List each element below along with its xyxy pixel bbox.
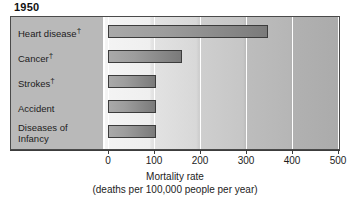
category-label-text: Diseases of xyxy=(18,122,68,133)
category-label-text: Infancy xyxy=(18,133,49,144)
x-axis-caption: Mortality rate (deaths per 100,000 peopl… xyxy=(0,170,350,196)
chart-title: 1950 xyxy=(14,1,39,14)
gridline-500 xyxy=(338,17,339,149)
tick-mark-400 xyxy=(292,150,293,154)
category-label-diseases-of-infancy: Diseases of xyxy=(18,122,68,133)
category-label-panel: Heart disease† Cancer† Strokes† Accident… xyxy=(11,17,103,149)
x-axis-line xyxy=(10,150,340,151)
bar-strokes xyxy=(108,75,156,88)
bar-cancer xyxy=(108,50,182,63)
plot-area xyxy=(105,17,339,149)
tick-label-400: 400 xyxy=(272,155,312,167)
tick-label-0: 0 xyxy=(88,155,128,167)
category-label-strokes: Strokes† xyxy=(18,78,55,89)
tick-mark-200 xyxy=(200,150,201,154)
gridline-400 xyxy=(292,17,293,149)
category-label-text: Cancer xyxy=(18,53,49,64)
x-axis-title: Mortality rate xyxy=(0,170,350,183)
tick-label-200: 200 xyxy=(180,155,220,167)
tick-label-500: 500 xyxy=(318,155,350,167)
category-label-text: Accident xyxy=(18,103,54,114)
bar-heart-disease xyxy=(108,25,268,38)
category-label-accident: Accident xyxy=(18,103,54,114)
mortality-bar-chart-figure: 1950 Heart disease† Cancer† Strokes† Acc… xyxy=(0,0,350,202)
tick-mark-0 xyxy=(108,150,109,154)
category-label-diseases-of-infancy-line2: Infancy xyxy=(18,133,49,144)
dagger-marker: † xyxy=(77,26,81,35)
dagger-marker: † xyxy=(49,51,53,60)
category-label-text: Heart disease xyxy=(18,28,77,39)
category-label-cancer: Cancer† xyxy=(18,53,53,64)
dagger-marker: † xyxy=(50,76,54,85)
x-axis-subtitle: (deaths per 100,000 people per year) xyxy=(0,183,350,196)
bar-accident xyxy=(108,100,156,113)
category-label-heart-disease: Heart disease† xyxy=(18,28,81,39)
tick-mark-100 xyxy=(154,150,155,154)
tick-mark-300 xyxy=(246,150,247,154)
category-label-text: Strokes xyxy=(18,78,50,89)
tick-mark-500 xyxy=(338,150,339,154)
tick-label-300: 300 xyxy=(226,155,266,167)
tick-label-100: 100 xyxy=(134,155,174,167)
bar-diseases-of-infancy xyxy=(108,125,156,138)
